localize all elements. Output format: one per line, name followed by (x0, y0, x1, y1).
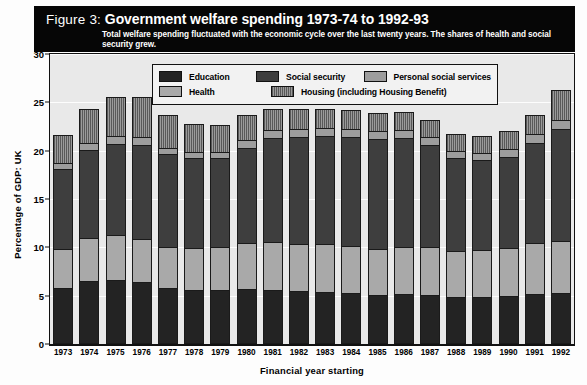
x-tick-label-1986: 1986 (395, 348, 413, 357)
bar-segment-health (211, 248, 229, 291)
bar-segment-social-security (54, 170, 72, 250)
x-tick-label-1991: 1991 (526, 348, 544, 357)
bar-segment-social-security (238, 149, 256, 245)
bar-segment-education (290, 292, 308, 343)
bar-1986[interactable] (394, 112, 414, 344)
bar-segment-health (369, 250, 387, 295)
bar-segment-housing-including-housing-benefit (473, 137, 491, 153)
bar-segment-social-security (107, 145, 125, 236)
x-tick-label-1985: 1985 (368, 348, 386, 357)
x-tick-label-1973: 1973 (54, 348, 72, 357)
bar-segment-education (473, 298, 491, 343)
bar-segment-education (159, 289, 177, 343)
y-tick-label: 15 (33, 194, 44, 205)
bar-segment-social-security (395, 139, 413, 248)
bar-segment-housing-including-housing-benefit (107, 98, 125, 138)
bar-segment-social-security (133, 146, 151, 240)
legend-item-health[interactable]: Health (159, 86, 271, 97)
bar-1991[interactable] (525, 115, 545, 344)
bar-1977[interactable] (158, 115, 178, 344)
figure-number: Figure 3: (46, 12, 101, 27)
bar-segment-education (395, 295, 413, 343)
bar-1981[interactable] (263, 109, 283, 344)
bar-segment-personal-social-services (238, 141, 256, 149)
bar-1980[interactable] (237, 115, 257, 344)
figure-title-line: Figure 3: Government welfare spending 19… (46, 11, 565, 28)
bar-segment-education (421, 296, 439, 343)
bar-1990[interactable] (499, 131, 519, 344)
bar-segment-education (107, 281, 125, 343)
bar-segment-social-security (185, 159, 203, 249)
health-swatch-icon (159, 86, 182, 97)
bar-segment-health (342, 247, 360, 293)
bar-segment-health (238, 244, 256, 289)
bar-segment-personal-social-services (316, 129, 334, 137)
bar-1975[interactable] (106, 97, 126, 344)
bar-1973[interactable] (53, 135, 73, 344)
bar-segment-personal-social-services (500, 150, 518, 159)
bar-1984[interactable] (341, 110, 361, 344)
bar-segment-social-security (526, 144, 544, 245)
bar-segment-personal-social-services (211, 153, 229, 160)
legend-item-housing[interactable]: Housing (including Housing Benefit) (271, 86, 446, 97)
bar-segment-education (552, 294, 570, 343)
bar-segment-personal-social-services (473, 154, 491, 162)
bar-segment-personal-social-services (133, 138, 151, 146)
x-tick-label-1984: 1984 (342, 348, 360, 357)
legend-label-personal-social-services: Personal social services (394, 72, 491, 82)
bar-segment-social-security (447, 159, 465, 252)
bar-segment-social-security (342, 138, 360, 247)
y-tick-label: 30 (33, 49, 44, 60)
legend-item-education[interactable]: Education (159, 71, 256, 82)
chart-legend: Education Social security Personal socia… (152, 64, 498, 105)
bar-segment-social-security (316, 137, 334, 245)
bar-1992[interactable] (551, 90, 571, 344)
bar-segment-housing-including-housing-benefit (421, 121, 439, 138)
bar-segment-personal-social-services (447, 152, 465, 160)
x-tick-label-1990: 1990 (499, 348, 517, 357)
bar-segment-personal-social-services (264, 131, 282, 139)
bar-segment-housing-including-housing-benefit (185, 125, 203, 153)
bar-segment-education (54, 289, 72, 343)
bar-1976[interactable] (132, 97, 152, 344)
bar-segment-housing-including-housing-benefit (133, 98, 151, 138)
x-tick-label-1987: 1987 (421, 348, 439, 357)
figure-subtitle: Total welfare spending fluctuated with t… (102, 30, 565, 49)
bar-segment-health (264, 243, 282, 290)
bar-1983[interactable] (315, 109, 335, 344)
bar-1982[interactable] (289, 109, 309, 344)
bar-segment-social-security (500, 158, 518, 249)
bar-segment-health (473, 251, 491, 297)
bar-1987[interactable] (420, 120, 440, 344)
bar-segment-health (185, 249, 203, 291)
bar-segment-social-security (80, 151, 98, 239)
bar-1989[interactable] (472, 136, 492, 344)
bar-segment-housing-including-housing-benefit (526, 116, 544, 135)
bar-segment-education (264, 291, 282, 343)
bar-segment-social-security (421, 146, 439, 248)
bar-segment-social-security (159, 155, 177, 248)
social-security-swatch-icon (256, 71, 279, 82)
bar-segment-health (290, 245, 308, 291)
bar-segment-housing-including-housing-benefit (316, 110, 334, 129)
bar-1985[interactable] (368, 113, 388, 344)
legend-item-social-security[interactable]: Social security (256, 71, 363, 82)
bar-segment-personal-social-services (552, 121, 570, 131)
bar-segment-housing-including-housing-benefit (447, 135, 465, 151)
bar-segment-education (342, 294, 360, 343)
bar-segment-education (369, 296, 387, 343)
bar-segment-housing-including-housing-benefit (211, 126, 229, 153)
bar-segment-social-security (290, 138, 308, 245)
legend-label-health: Health (189, 87, 215, 97)
bar-segment-personal-social-services (342, 130, 360, 138)
bar-segment-health (316, 245, 334, 292)
bar-segment-social-security (473, 161, 491, 251)
bar-segment-health (552, 242, 570, 293)
legend-item-personal-social-services[interactable]: Personal social services (364, 71, 491, 82)
bar-1978[interactable] (184, 124, 204, 344)
personal-social-services-swatch-icon (364, 71, 387, 82)
bar-1974[interactable] (79, 109, 99, 344)
bar-1979[interactable] (210, 125, 230, 344)
bar-segment-health (54, 250, 72, 289)
bar-1988[interactable] (446, 134, 466, 344)
